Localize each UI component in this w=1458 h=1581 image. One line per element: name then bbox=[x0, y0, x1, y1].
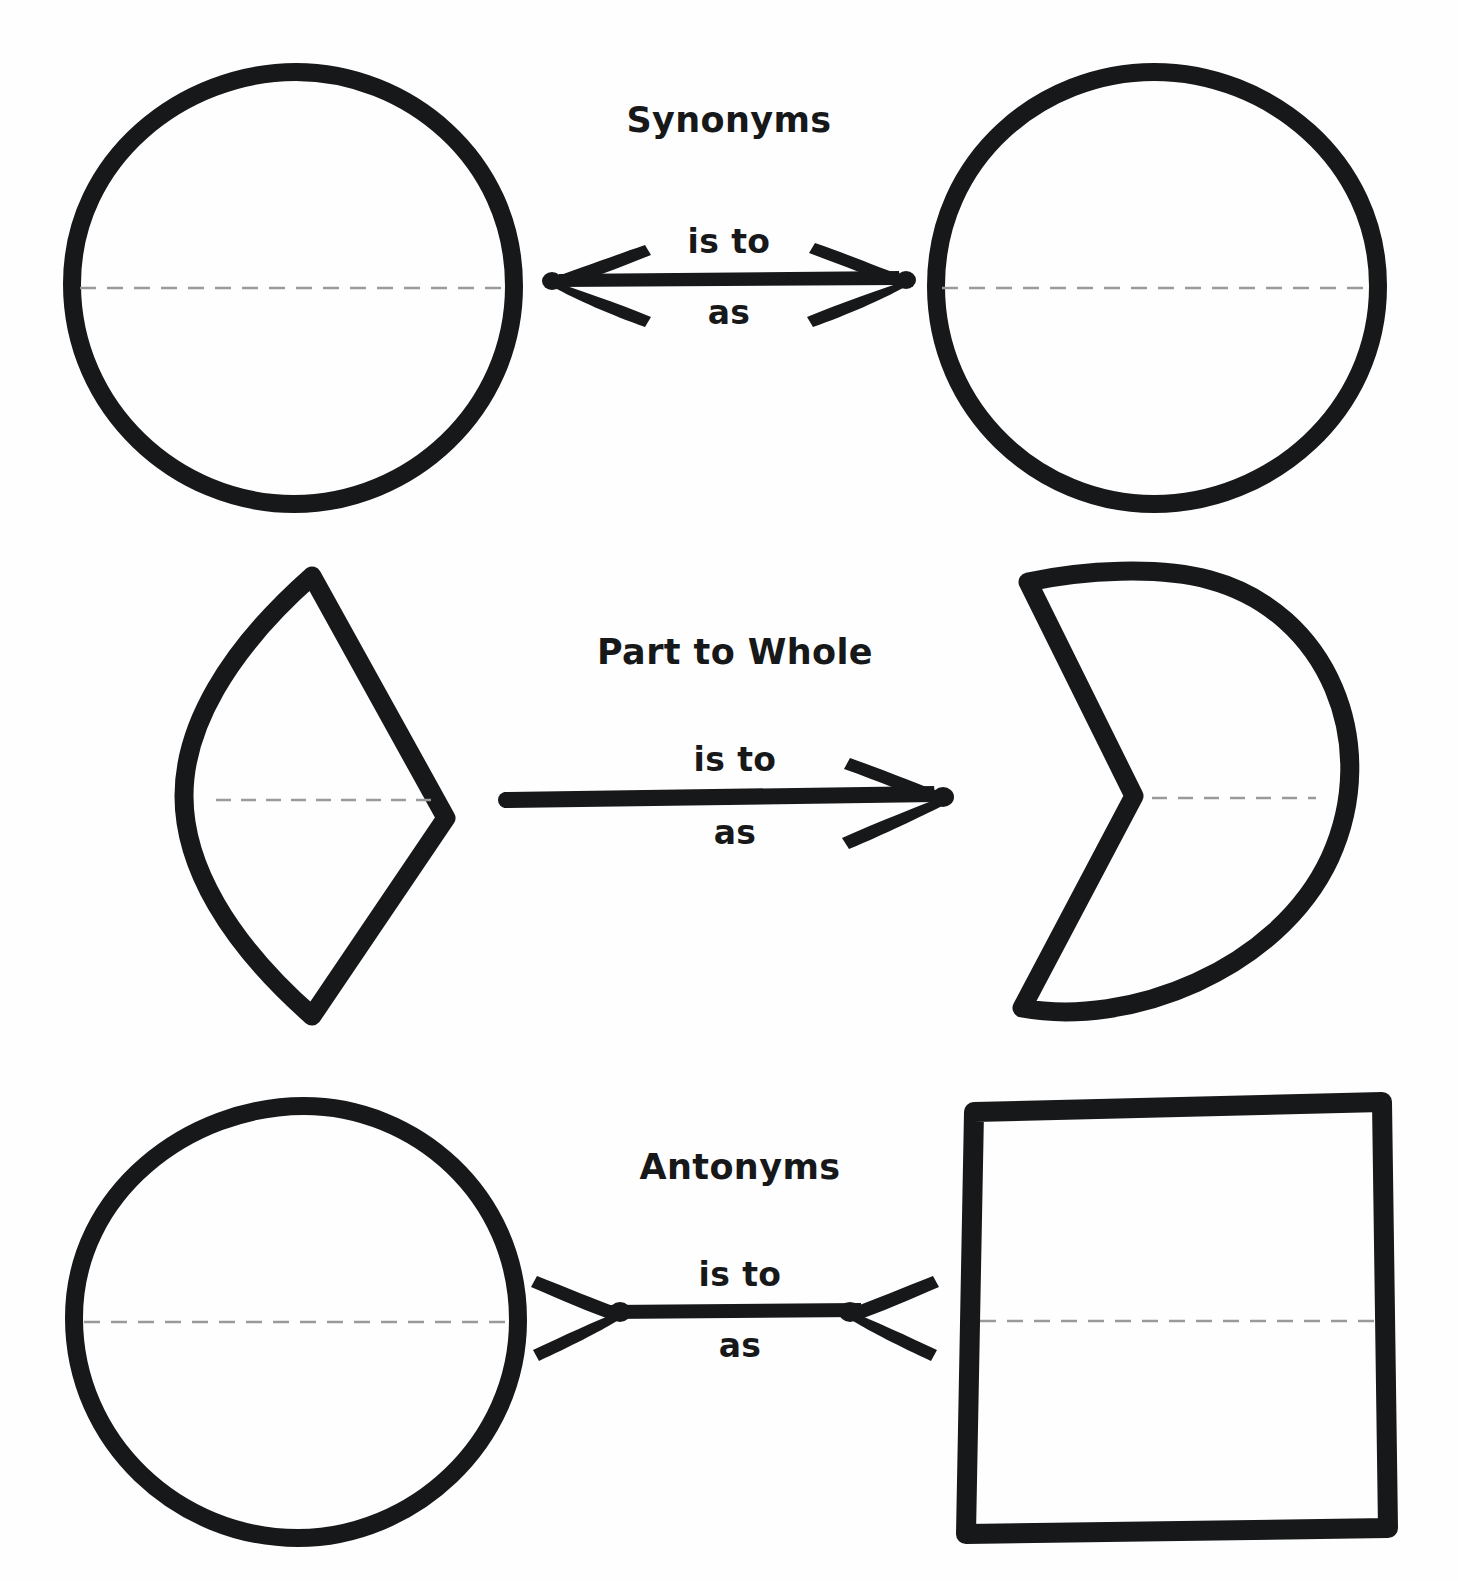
as-label-synonyms: as bbox=[529, 293, 929, 332]
shape-circle-bottom-left bbox=[58, 1092, 538, 1552]
shape-circular-segment bbox=[160, 560, 470, 1030]
shape-circle-left bbox=[58, 58, 528, 518]
relation-title-antonyms: Antonyms bbox=[530, 1147, 950, 1187]
as-label-antonyms: as bbox=[530, 1326, 950, 1365]
shape-pacman bbox=[978, 558, 1378, 1028]
relation-title-synonyms: Synonyms bbox=[529, 100, 929, 140]
relation-title-part-to-whole: Part to Whole bbox=[520, 632, 950, 672]
worksheet-canvas: Synonyms is to as bbox=[0, 0, 1458, 1581]
analogy-row-antonyms: Antonyms is to as bbox=[0, 1060, 1458, 1581]
shape-circle-right bbox=[922, 58, 1392, 518]
shape-square bbox=[950, 1088, 1400, 1548]
analogy-row-synonyms: Synonyms is to as bbox=[0, 0, 1458, 540]
analogy-row-part-to-whole: Part to Whole is to as bbox=[0, 540, 1458, 1060]
as-label-part-to-whole: as bbox=[520, 813, 950, 852]
